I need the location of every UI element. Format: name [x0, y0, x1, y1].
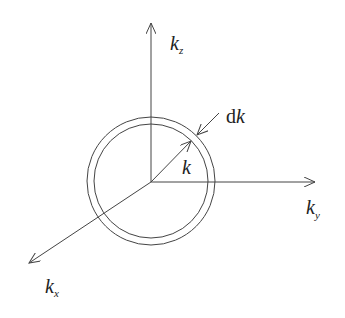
kx-axis [29, 182, 151, 263]
shell-thickness-label: dk [226, 105, 246, 127]
k-space-diagram: kz ky kx k dk [0, 0, 345, 318]
kz-label: kz [170, 32, 184, 56]
kx-label: kx [45, 275, 59, 299]
dk-pointer-arrow [197, 113, 219, 135]
radius-label: k [182, 156, 192, 178]
ky-label: ky [306, 196, 320, 221]
